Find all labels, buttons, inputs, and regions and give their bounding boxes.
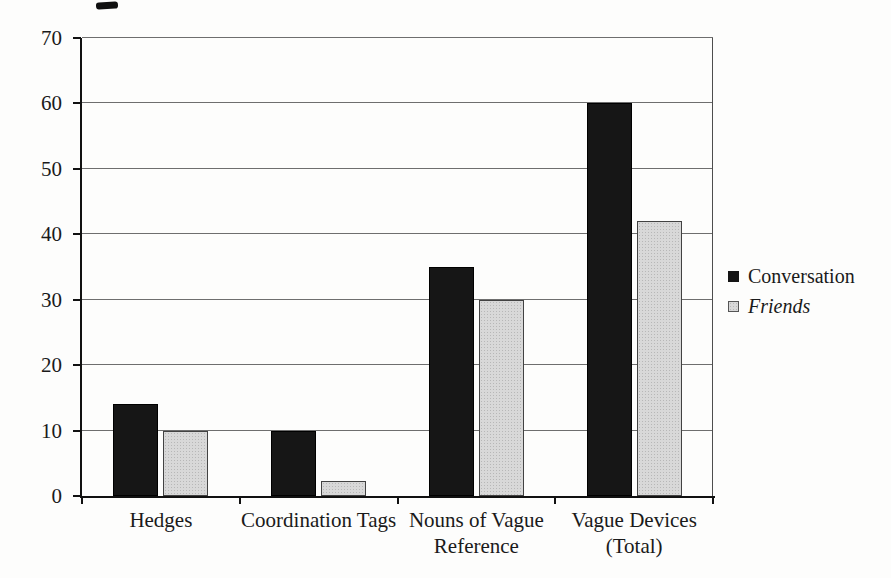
- plot-area: [82, 38, 713, 496]
- y-tick-label-30: 30: [10, 288, 72, 312]
- x-tick-mark-4: [712, 498, 714, 504]
- bar-chart-figure: 010203040506070 HedgesCoordination TagsN…: [0, 0, 891, 578]
- category-label-line: (Total): [555, 533, 713, 559]
- bar-group-vague-devices-total: [555, 38, 713, 496]
- category-label-line: Reference: [398, 533, 556, 559]
- y-tick-label-70: 70: [10, 26, 72, 50]
- y-tick-label-0: 0: [10, 484, 72, 508]
- bar-conversation-vague-devices-total: [587, 103, 632, 496]
- legend-label-friends: Friends: [748, 294, 810, 318]
- y-tick-label-20: 20: [10, 353, 72, 377]
- y-tick-label-60: 60: [10, 91, 72, 115]
- y-tick-label-10: 10: [10, 419, 72, 443]
- bars: [82, 38, 713, 496]
- bar-friends-vague-devices-total: [637, 221, 682, 496]
- y-axis-line: [80, 38, 82, 498]
- legend: Conversation Friends: [728, 264, 855, 324]
- legend-item-friends: Friends: [728, 294, 855, 318]
- bar-group-hedges: [82, 38, 240, 496]
- conversation-swatch-icon: [728, 271, 739, 282]
- category-label-line: Coordination Tags: [240, 507, 398, 533]
- bar-conversation-hedges: [113, 404, 158, 496]
- friends-swatch-icon: [728, 301, 739, 312]
- category-label-line: Hedges: [82, 507, 240, 533]
- category-label-line: Nouns of Vague: [398, 507, 556, 533]
- bar-conversation-coordination-tags: [271, 431, 316, 496]
- legend-label-conversation: Conversation: [748, 264, 855, 288]
- legend-item-conversation: Conversation: [728, 264, 855, 288]
- bar-group-coordination-tags: [240, 38, 398, 496]
- x-tick-mark-3: [554, 498, 556, 504]
- x-tick-mark-0: [81, 498, 83, 504]
- x-axis-ticks: [82, 498, 713, 504]
- x-axis-labels: HedgesCoordination TagsNouns of VagueRef…: [82, 507, 713, 559]
- x-tick-mark-1: [239, 498, 241, 504]
- category-label-coordination-tags: Coordination Tags: [240, 507, 398, 559]
- bar-group-nouns-of-vague-reference: [398, 38, 556, 496]
- category-label-hedges: Hedges: [82, 507, 240, 559]
- scan-artifact-dash: [96, 1, 118, 9]
- bar-friends-nouns-of-vague-reference: [479, 300, 524, 496]
- bar-friends-hedges: [163, 431, 208, 496]
- bar-conversation-nouns-of-vague-reference: [429, 267, 474, 496]
- category-label-vague-devices-total: Vague Devices(Total): [555, 507, 713, 559]
- y-axis-labels: 010203040506070: [0, 38, 72, 496]
- bar-friends-coordination-tags: [321, 481, 366, 496]
- category-label-nouns-of-vague-reference: Nouns of VagueReference: [398, 507, 556, 559]
- x-tick-mark-2: [397, 498, 399, 504]
- y-tick-label-40: 40: [10, 222, 72, 246]
- y-tick-label-50: 50: [10, 157, 72, 181]
- category-label-line: Vague Devices: [555, 507, 713, 533]
